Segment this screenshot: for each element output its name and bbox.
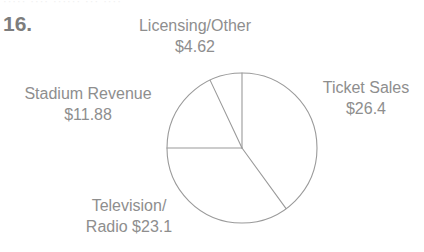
slice-label-television-radio-name: Television/ <box>58 196 200 217</box>
pie-chart-figure: ····· ···· ······ ··· ···· 16. Licensing… <box>0 0 424 252</box>
slice-label-ticket-sales-name: Ticket Sales <box>312 78 420 99</box>
slice-label-stadium-revenue-value: $11.88 <box>12 105 164 126</box>
slice-divider-stadium-licensing <box>210 80 242 148</box>
slice-divider-ticket-television <box>242 148 286 209</box>
slice-label-stadium-revenue-name: Stadium Revenue <box>12 84 164 105</box>
slice-label-licensing-other: Licensing/Other $4.62 <box>124 16 266 58</box>
slice-label-ticket-sales: Ticket Sales $26.4 <box>312 78 420 120</box>
slice-label-licensing-other-name: Licensing/Other <box>124 16 266 37</box>
slice-label-stadium-revenue: Stadium Revenue $11.88 <box>12 84 164 126</box>
slice-label-licensing-other-value: $4.62 <box>124 37 266 58</box>
slice-label-television-radio-value: Radio $23.1 <box>58 217 200 238</box>
slice-label-ticket-sales-value: $26.4 <box>312 99 420 120</box>
slice-label-television-radio: Television/ Radio $23.1 <box>58 196 200 238</box>
